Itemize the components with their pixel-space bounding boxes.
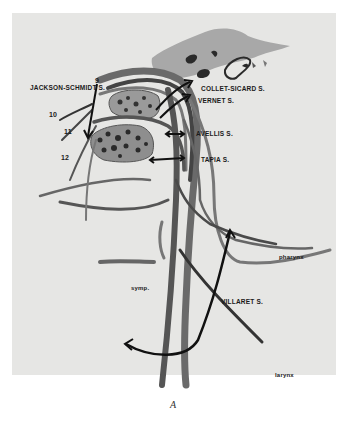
cranial-nerve-diagram <box>0 0 344 424</box>
nerve-trunks <box>40 71 330 385</box>
label-avellis: AVELLIS S. <box>196 131 233 138</box>
label-collet-sicard: COLLET-SICARD S. <box>201 86 265 93</box>
arrow-villaret <box>126 232 230 355</box>
figure-caption: A <box>170 399 176 410</box>
ganglia <box>91 90 160 162</box>
label-pharynx: pharynx <box>279 254 304 260</box>
label-symp: symp. <box>131 285 149 291</box>
label-nerve-12: 12 <box>61 154 69 161</box>
label-villaret: VILLARET S. <box>221 299 263 306</box>
label-tapia: TAPIA S. <box>201 157 229 164</box>
skull-base <box>152 29 290 79</box>
label-jackson-schmidt: JACKSON-SCHMIDT S. <box>30 85 105 92</box>
label-nerve-10: 10 <box>49 111 57 118</box>
label-larynx: larynx <box>275 372 294 378</box>
label-nerve-9: 9 <box>95 77 99 84</box>
label-nerve-11: 11 <box>64 128 72 135</box>
label-vernet: VERNET S. <box>198 98 234 105</box>
